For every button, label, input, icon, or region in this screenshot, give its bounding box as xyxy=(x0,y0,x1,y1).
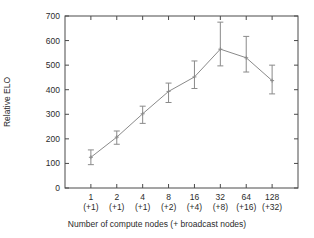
plot-canvas: 0100200300400500600700 1(+1)2(+1)4(+1)8(… xyxy=(0,0,314,238)
x-axis-tick-labels: 1(+1)2(+1)4(+1)8(+2)16(+4)32(+8)64(+16)1… xyxy=(83,192,282,212)
y-axis-tick-label: 500 xyxy=(46,60,60,70)
error-bar xyxy=(243,36,249,72)
x-axis-tick-label-nodes: 2 xyxy=(114,192,119,202)
x-axis-tick-label-nodes: 8 xyxy=(166,192,171,202)
x-axis-tick-label-broadcast: (+32) xyxy=(262,202,282,212)
x-axis-tick-label-broadcast: (+1) xyxy=(109,202,125,212)
x-axis-tick-label-broadcast: (+2) xyxy=(161,202,177,212)
x-axis-tick-label-broadcast: (+1) xyxy=(83,202,99,212)
chart-figure: Relative ELO 0100200300400500600700 1(+1… xyxy=(0,0,314,238)
y-axis-tick-marks xyxy=(65,16,298,188)
y-axis-tick-label: 100 xyxy=(46,158,60,168)
x-axis-tick-label-nodes: 32 xyxy=(216,192,226,202)
x-axis-tick-label-nodes: 16 xyxy=(190,192,200,202)
plot-frame xyxy=(65,16,298,188)
y-axis-tick-label: 0 xyxy=(55,183,60,193)
x-axis-tick-label-nodes: 64 xyxy=(241,192,251,202)
x-axis-title: Number of compute nodes (+ broadcast nod… xyxy=(0,219,314,229)
x-axis-tick-label-nodes: 4 xyxy=(140,192,145,202)
error-bar xyxy=(217,22,223,66)
x-axis-tick-marks xyxy=(91,16,272,188)
data-series-line xyxy=(91,49,272,157)
x-axis-tick-label-broadcast: (+8) xyxy=(213,202,229,212)
x-axis-tick-label-broadcast: (+4) xyxy=(187,202,203,212)
y-axis-tick-label: 300 xyxy=(46,109,60,119)
y-axis-tick-label: 600 xyxy=(46,36,60,46)
x-axis-tick-label-broadcast: (+16) xyxy=(236,202,256,212)
x-axis-tick-label-nodes: 1 xyxy=(89,192,94,202)
y-axis-tick-label: 700 xyxy=(46,11,60,21)
y-axis-tick-label: 200 xyxy=(46,134,60,144)
y-axis-tick-labels: 0100200300400500600700 xyxy=(46,11,60,193)
x-axis-tick-label-broadcast: (+1) xyxy=(135,202,151,212)
error-bars xyxy=(88,22,275,165)
y-axis-tick-label: 400 xyxy=(46,85,60,95)
x-axis-tick-label-nodes: 128 xyxy=(265,192,279,202)
